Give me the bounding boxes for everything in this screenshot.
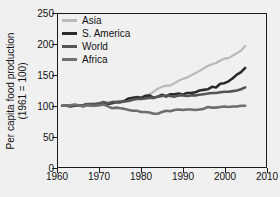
series-line	[62, 68, 245, 107]
x-axis-tick-labels: 196019701980199020002010	[0, 171, 280, 187]
legend-swatch	[62, 58, 77, 61]
chart-legend: AsiaS. AmericaWorldAfrica	[62, 15, 130, 65]
y-axis-tick-label: 250	[2, 8, 54, 19]
x-axis-tick-label: 2010	[256, 171, 278, 182]
series-line	[62, 87, 245, 105]
legend-item: S. America	[62, 28, 130, 39]
y-axis-tick-labels: 050100150200250	[0, 0, 54, 197]
x-axis-tick-label: 1990	[172, 171, 194, 182]
legend-item: Asia	[62, 15, 130, 26]
x-axis-tick-label: 1970	[88, 171, 110, 182]
x-axis-tick-label: 1960	[46, 171, 68, 182]
legend-item: Africa	[62, 54, 130, 65]
y-axis-tick-label: 200	[2, 39, 54, 50]
legend-label: Africa	[82, 54, 108, 65]
legend-swatch	[62, 32, 77, 35]
legend-label: World	[82, 41, 108, 52]
y-axis-tick-label: 100	[2, 101, 54, 112]
legend-swatch	[62, 19, 77, 21]
y-axis-tick-label: 150	[2, 70, 54, 81]
series-line	[62, 105, 245, 114]
legend-label: S. America	[82, 28, 130, 39]
y-axis-tick-label: 50	[2, 132, 54, 143]
legend-swatch	[62, 45, 77, 48]
legend-item: World	[62, 41, 130, 52]
chart-figure: Per capita food production (1961 = 100) …	[0, 0, 280, 197]
legend-label: Asia	[82, 15, 101, 26]
x-axis-tick-label: 1980	[130, 171, 152, 182]
x-axis-tick-label: 2000	[214, 171, 236, 182]
